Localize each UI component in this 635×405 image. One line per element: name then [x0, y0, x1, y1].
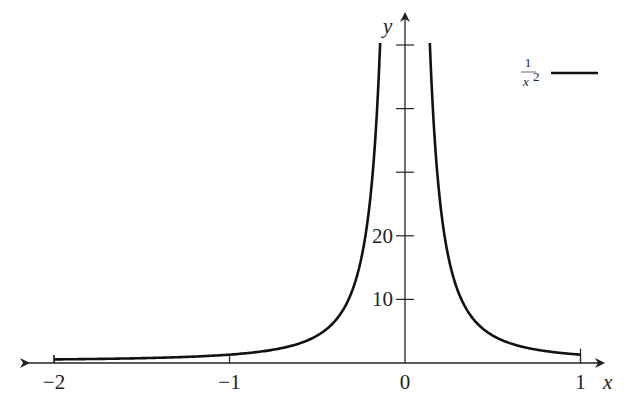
legend-numerator: 1: [525, 55, 532, 70]
chart-canvas: xy−2−1011020 1x2: [0, 0, 635, 405]
y-tick-label: 10: [372, 287, 393, 311]
x-axis-label: x: [602, 370, 613, 394]
y-tick-label: 20: [372, 224, 393, 248]
y-axis-label: y: [381, 14, 393, 38]
legend-exponent: 2: [533, 69, 540, 84]
x-tick-label: −1: [218, 370, 240, 394]
legend: 1x2: [521, 55, 598, 89]
plot-curves: [54, 43, 581, 363]
legend-denominator: x: [522, 74, 529, 89]
axes: xy−2−1011020: [28, 14, 613, 394]
curve-right-branch: [430, 43, 581, 355]
curve-left-branch: [54, 43, 380, 359]
x-tick-label: 0: [400, 370, 411, 394]
x-tick-label: −2: [43, 370, 65, 394]
x-tick-label: 1: [575, 370, 586, 394]
